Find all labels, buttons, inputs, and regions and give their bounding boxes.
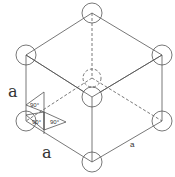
angle-label-top: 90° xyxy=(30,102,40,108)
edge xyxy=(92,121,162,162)
edge xyxy=(92,13,162,55)
angle-label-right: 90° xyxy=(50,119,60,125)
cubic-unit-cell-diagram: a a a 90° 90° 90° xyxy=(0,0,175,177)
edge-label-bottom-right: a xyxy=(130,140,135,149)
angle-label-left: 90° xyxy=(32,119,42,125)
edge-label-left: a xyxy=(8,82,18,101)
cube-svg: a a a 90° 90° 90° xyxy=(0,0,175,177)
edge xyxy=(26,13,92,55)
edge-label-bottom-left: a xyxy=(42,143,52,162)
edge xyxy=(26,121,92,162)
hidden-edge xyxy=(92,78,162,121)
